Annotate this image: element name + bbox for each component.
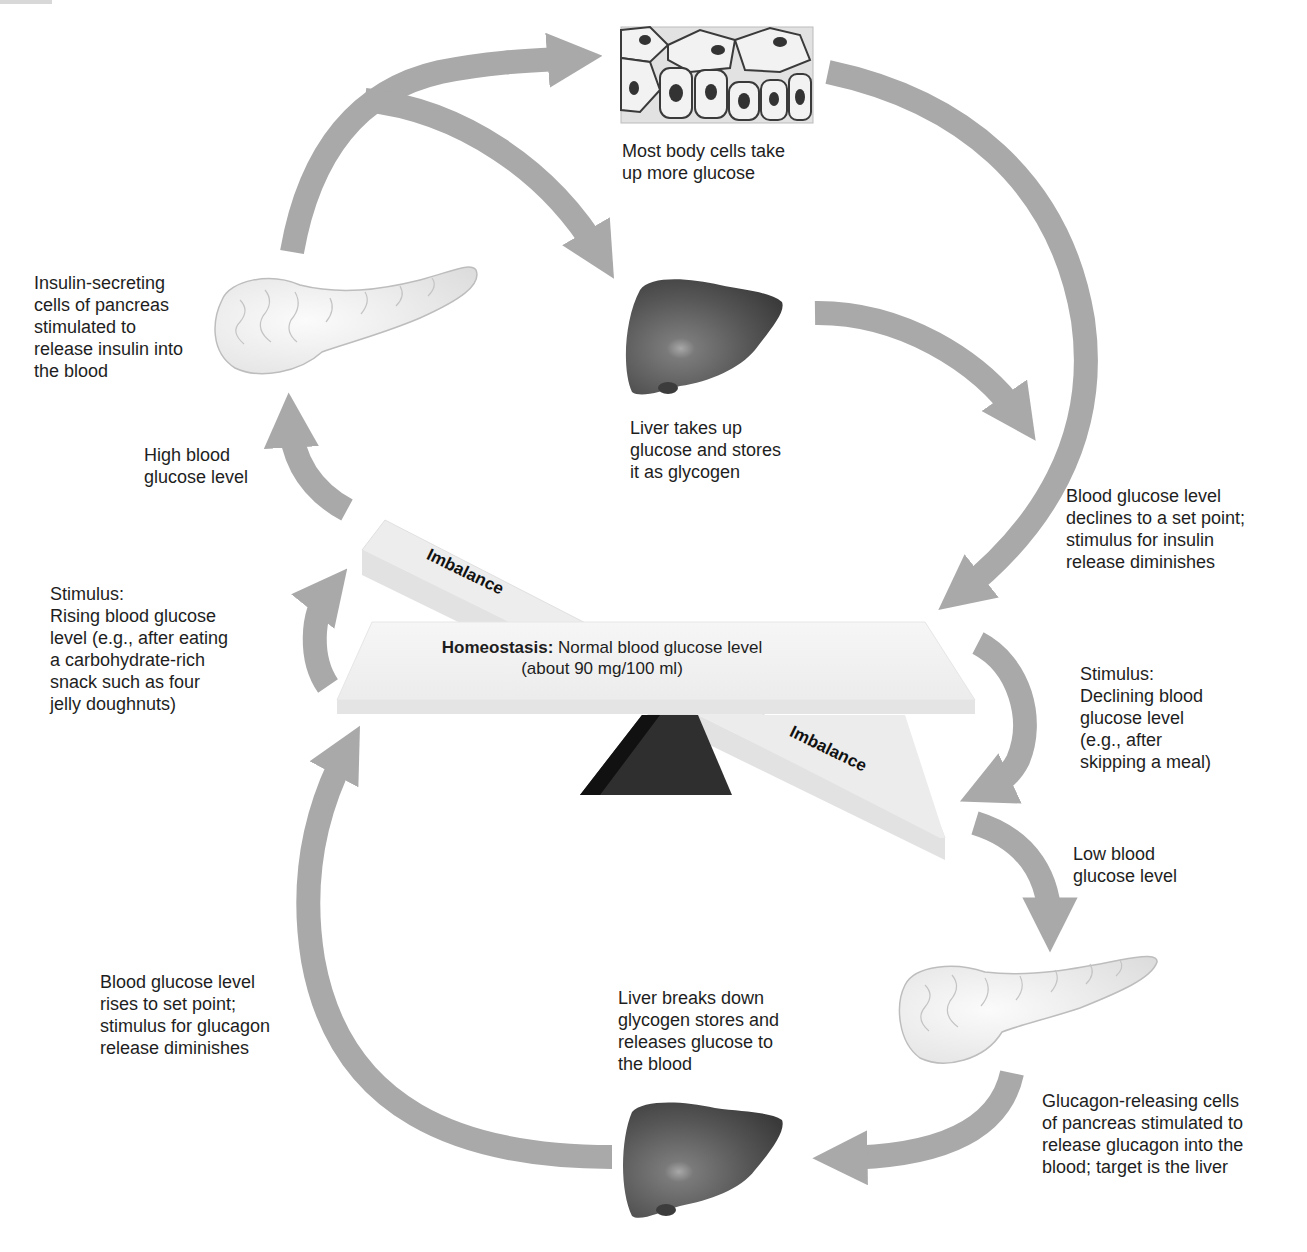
label-low-glucose: Low blood glucose level [1073, 843, 1177, 887]
arrow-pancreas-to-liver-icon [840, 1073, 1012, 1158]
label-pancreas-glucagon: Glucagon-releasing cells of pancreas sti… [1042, 1090, 1243, 1178]
label-stimulus-rising: Stimulus: Rising blood glucose level (e.… [50, 583, 228, 715]
homeostasis-label: Homeostasis: Normal blood glucose level … [372, 637, 832, 679]
seesaw-illustration-icon [337, 520, 975, 860]
diagram-canvas: Most body cells take up more glucose Ins… [0, 0, 1307, 1252]
pancreas-bottom-illustration-icon [900, 956, 1158, 1063]
pancreas-top-illustration-icon [215, 267, 477, 374]
arrow-branch-to-liver-icon [365, 100, 600, 255]
arrow-pancreas-to-cells-icon [292, 58, 575, 252]
arrow-liver-to-setpoint-icon [815, 313, 1020, 418]
label-pancreas-insulin: Insulin-secreting cells of pancreas stim… [34, 272, 183, 382]
arrow-low-glucose-icon [975, 823, 1050, 925]
label-high-glucose: High blood glucose level [144, 444, 248, 488]
label-liver-stores: Liver takes up glucose and stores it as … [630, 417, 781, 483]
label-body-cells: Most body cells take up more glucose [622, 140, 785, 184]
homeostasis-heading: Homeostasis: [442, 638, 553, 657]
label-liver-releases: Liver breaks down glycogen stores and re… [618, 987, 779, 1075]
arrow-stimulus-declining-icon [978, 643, 1025, 790]
arrow-stimulus-rising-icon [315, 590, 330, 686]
label-rises-set-point: Blood glucose level rises to set point; … [100, 971, 270, 1059]
label-stimulus-declining: Stimulus: Declining blood glucose level … [1080, 663, 1211, 773]
liver-bottom-illustration-icon [623, 1102, 783, 1217]
arrow-high-glucose-icon [290, 420, 347, 510]
label-declines-set-point: Blood glucose level declines to a set po… [1066, 485, 1245, 573]
arrow-cells-to-setpoint-icon [828, 72, 1086, 593]
homeostasis-text: Normal blood glucose level [558, 638, 762, 657]
homeostasis-value: (about 90 mg/100 ml) [372, 658, 832, 679]
arrow-liver-to-setpoint-icon [308, 750, 612, 1157]
body-cells-illustration-icon [621, 27, 813, 123]
liver-top-illustration-icon [626, 279, 783, 394]
